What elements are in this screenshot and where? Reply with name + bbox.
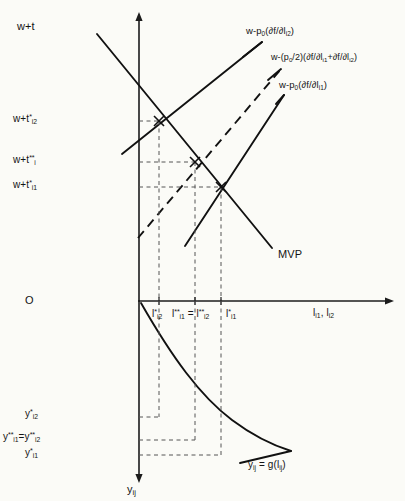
economics-figure: w+t O w+t*i2 w+t**i w+t*i1 l*i2 l**i1 = … (0, 0, 405, 501)
y-tick-label-y-star-i2: y*i2 (25, 408, 38, 421)
y-tick-label-w-t-star-i2: w+t*i2 (13, 113, 37, 126)
lower-y-axis (135, 300, 142, 483)
lower-y-sub: ij (133, 488, 136, 497)
y-tick-sub: i2 (32, 118, 37, 125)
curve-label-w-minus-p0-dfdl-i1: w-p0(∂f/∂li1) (279, 80, 327, 91)
y-tick-base: w+t (13, 179, 29, 190)
x-tick-label-l-star-i2: l*i2 (152, 308, 162, 321)
y-tick-label-w-t-star-i1: w+t*i1 (13, 179, 37, 192)
curve-label-mvp: MVP (278, 249, 302, 260)
cl-suffix: ) (291, 25, 294, 36)
pf-suffix: ) (282, 459, 285, 470)
curve-label-w-minus-p0-dfdl-i2: w-p0(∂f/∂li2) (246, 26, 294, 37)
supply-curve-i2 (122, 42, 262, 154)
y-tick-sub: i (34, 159, 36, 166)
x-axis-sub2: i2 (329, 312, 334, 319)
production-function-label: yij = g(lij) (248, 460, 286, 472)
cl-mid2: +∂f/∂l (327, 52, 349, 62)
x-tick-label-l-dstar-equal: l**i1 = l**i2 (172, 308, 209, 321)
guide-lines-lower (139, 301, 221, 455)
origin-label: O (25, 295, 34, 306)
cl-suffix: ) (354, 52, 357, 62)
upper-y-axis-label: w+t (17, 21, 35, 32)
cl-prefix: w-p (246, 25, 262, 36)
cl-suffix: ) (324, 79, 327, 90)
upper-x-axis (139, 297, 394, 304)
cl-prefix: w-(p (271, 52, 289, 62)
y-tick-base: w+t (13, 154, 29, 165)
production-function-curve (141, 303, 291, 451)
x-tick-label-l-star-i1: l*i1 (226, 308, 236, 321)
y-tick-sub: i1 (32, 184, 37, 191)
x-tick-sub: i2 (157, 313, 162, 320)
cl-prefix: w-p (279, 79, 295, 90)
y-tick-label-y-dstar-equal: y**i1=y**i2 (3, 431, 40, 444)
upper-x-axis-label: li1, li2 (313, 308, 334, 320)
intersection-markers (154, 116, 226, 192)
curve-label-w-minus-half-p0-sum: w-(p0/2)(∂f/∂li1+∂f/∂li2) (271, 53, 357, 63)
y-tick-sub2: i2 (35, 436, 40, 443)
cl-mid: (∂f/∂l (298, 79, 319, 90)
mvp-curve (97, 34, 272, 248)
figure-canvas (0, 0, 405, 501)
pf-eq: = g(l (256, 459, 279, 470)
cl-mid: (∂f/∂l (265, 25, 286, 36)
x-tick-sub2: i2 (204, 313, 209, 320)
y-tick-sub: i1 (33, 452, 38, 459)
upper-y-axis (135, 12, 142, 302)
cl-mid: /2)(∂f/∂l (292, 52, 322, 62)
y-tick-label-y-star-i1: y*i1 (25, 447, 38, 460)
lower-y-axis-label: yij (127, 484, 136, 497)
supply-curve-i1 (185, 95, 284, 246)
y-tick-label-w-t-dstar-i: w+t**i (13, 154, 36, 167)
x-tick-sub: i1 (231, 313, 236, 320)
y-tick-sub: i2 (33, 413, 38, 420)
y-tick-base: w+t (13, 113, 29, 124)
x-tick-eq: = (185, 308, 197, 319)
